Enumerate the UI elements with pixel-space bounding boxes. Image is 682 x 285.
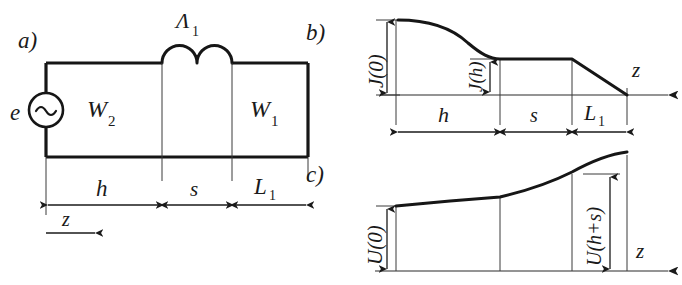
label-Jh: J(h) [465,61,487,92]
figure-svg: a) Λ 1 e W 2 [0,0,682,285]
z-axis-label-b: z [631,58,640,82]
dim-label-L1-base: L [253,174,267,199]
dim-label-L1-sub: 1 [269,188,276,203]
panel-a-label: a) [18,28,37,53]
label-J0: J(0) [364,54,388,88]
dim-label-s: s [190,177,198,201]
dim-label-h: h [96,176,108,201]
panel-c-label: c) [306,162,324,187]
figure-container: a) Λ 1 e W 2 [0,0,682,285]
z-axis-label-a: z [61,208,70,230]
voltage-curve [396,152,627,206]
section-label-W2-base: W [87,96,109,122]
inductor-label-sub: 1 [192,24,199,39]
dim-label-L1-sub-b: 1 [598,114,605,129]
label-U0: U(0) [363,225,387,265]
label-Uhs: U(h+s) [583,207,606,266]
inductor-label-base: Λ [174,8,190,33]
section-label-W1-sub: 1 [271,113,279,129]
panel-c: c) z U(0) U(h+s) [306,152,668,271]
dim-label-s-b: s [530,104,538,126]
source-label: e [10,100,20,125]
section-label-W2-sub: 2 [108,113,116,129]
panel-b-label: b) [306,20,325,45]
dim-label-L1-base-b: L [583,100,596,125]
section-label-W1-base: W [250,96,272,122]
inductor-symbol [162,46,232,64]
z-axis-label-c: z [635,239,644,263]
dim-label-h-b: h [438,102,449,127]
panel-a: a) Λ 1 e W 2 [10,8,308,233]
panel-b: b) z J(0) J(h) h s L 1 [306,20,668,132]
current-curve [398,20,627,95]
